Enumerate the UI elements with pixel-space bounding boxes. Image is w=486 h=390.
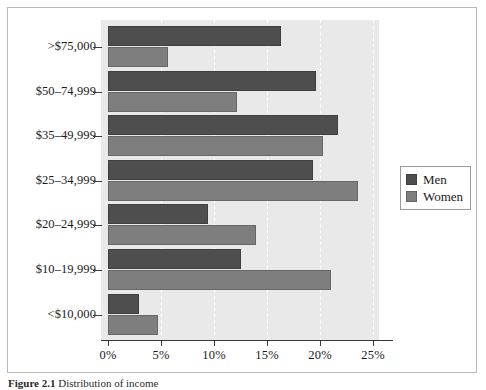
bar-women [108,136,323,156]
bar-group [101,294,379,339]
bar-men [108,294,139,314]
x-axis-tick-label: 20% [297,348,343,363]
y-axis-tick [93,136,102,137]
bar-group [101,115,379,160]
bar-men [108,249,241,269]
y-axis-tick-label: $10–19,999 [18,262,102,277]
bar-group [101,71,379,116]
legend-swatch-women [406,191,417,202]
y-axis-tick [93,315,102,316]
x-axis-tick [267,340,268,346]
x-axis-tick [108,340,109,346]
bar-men [108,115,338,135]
x-axis-tick-label: 25% [350,348,396,363]
y-axis-tick-label: $50–74,999 [18,84,102,99]
bar-men [108,71,316,91]
legend-item-men: Men [406,171,463,188]
x-axis-tick [373,340,374,346]
x-axis-line [101,340,393,341]
bar-men [108,160,313,180]
y-axis-tick [93,181,102,182]
x-axis-tick-label: 0% [85,348,131,363]
bar-women [108,47,168,67]
bar-group [101,26,379,71]
bar-women [108,270,331,290]
y-axis-tick [93,92,102,93]
caption-number: Figure 2.1 [8,377,55,389]
y-axis-tick-label: $25–34,999 [18,173,102,188]
y-axis-tick-label: <$10,000 [18,307,102,322]
chart-legend: Men Women [400,166,471,210]
x-axis-tick-label: 5% [138,348,184,363]
y-axis-tick [93,47,102,48]
bar-women [108,92,237,112]
caption-text: Distribution of income [58,377,158,389]
x-axis-tick [161,340,162,346]
legend-swatch-men [406,174,417,185]
y-axis: >$75,000$50–74,999$35–49,999$25–34,999$2… [8,8,102,374]
bar-women [108,181,358,201]
y-axis-tick-label: >$75,000 [18,39,102,54]
legend-label-women: Women [423,190,463,203]
figure-frame: >$75,000$50–74,999$35–49,999$25–34,999$2… [7,7,477,373]
x-axis-tick [320,340,321,346]
x-axis-tick-label: 10% [191,348,237,363]
y-axis-tick [93,270,102,271]
bar-men [108,204,208,224]
bar-group [101,160,379,205]
bar-group [101,249,379,294]
bar-women [108,315,158,335]
bar-men [108,26,281,46]
bars-layer [101,20,379,340]
figure-caption: Figure 2.1 Distribution of income [8,377,478,390]
y-axis-tick-label: $35–49,999 [18,128,102,143]
legend-label-men: Men [423,173,447,186]
bar-group [101,204,379,249]
chart-plot-area [101,20,379,340]
y-axis-tick-label: $20–24,999 [18,217,102,232]
bar-women [108,225,256,245]
y-axis-tick [93,225,102,226]
x-axis-tick [214,340,215,346]
x-axis-tick-label: 15% [244,348,290,363]
legend-item-women: Women [406,188,463,205]
